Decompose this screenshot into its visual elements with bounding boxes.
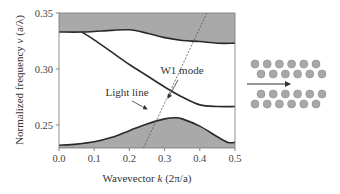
- air-hole: [251, 100, 259, 108]
- air-hole: [306, 90, 314, 98]
- lower-band-fill: [59, 118, 235, 150]
- x-axis-label: Wavevector k (2π/a): [103, 172, 192, 185]
- air-hole: [288, 100, 296, 108]
- air-hole: [312, 100, 320, 108]
- y-tick-label: 0.35: [35, 8, 53, 19]
- air-hole: [263, 60, 271, 68]
- x-tick-label: 0.5: [228, 153, 241, 164]
- light-line-label: Light line: [105, 86, 148, 98]
- light-line-arrow: [132, 101, 147, 109]
- air-hole: [318, 90, 326, 98]
- air-hole: [257, 90, 265, 98]
- air-hole: [263, 100, 271, 108]
- w1-mode-label: W1 mode: [160, 64, 203, 76]
- air-hole: [257, 70, 265, 78]
- air-hole: [251, 60, 259, 68]
- air-hole: [294, 70, 302, 78]
- x-tick-label: 0.3: [158, 153, 171, 164]
- air-hole: [281, 90, 289, 98]
- air-hole: [275, 60, 283, 68]
- y-axis-label: Normalized frequency ν (a/λ): [13, 15, 26, 145]
- x-axis: 0.00.10.20.30.40.5: [52, 148, 241, 164]
- x-tick-label: 0.0: [52, 153, 65, 164]
- x-tick-label: 0.2: [123, 153, 136, 164]
- air-hole: [288, 60, 296, 68]
- air-hole: [294, 90, 302, 98]
- air-hole: [300, 60, 308, 68]
- band-diagram-chart: 0.00.10.20.30.40.5 0.250.300.35 Wavevect…: [0, 0, 340, 194]
- air-hole: [269, 70, 277, 78]
- y-tick-label: 0.30: [35, 64, 53, 75]
- x-tick-label: 0.4: [193, 153, 207, 164]
- air-hole: [312, 60, 320, 68]
- plot-area: [59, 11, 235, 150]
- upper-band-fill: [59, 11, 235, 43]
- x-tick-label: 0.1: [88, 153, 101, 164]
- air-hole: [275, 100, 283, 108]
- air-hole: [281, 70, 289, 78]
- y-axis: 0.250.300.35: [35, 8, 59, 131]
- air-hole: [300, 100, 308, 108]
- air-hole: [306, 70, 314, 78]
- air-hole: [269, 90, 277, 98]
- air-hole: [318, 70, 326, 78]
- y-tick-label: 0.25: [35, 120, 53, 131]
